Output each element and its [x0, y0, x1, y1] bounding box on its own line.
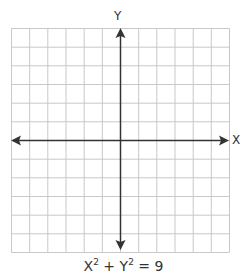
equation-y: Y — [120, 258, 129, 274]
equation-caption: X2 + Y2 = 9 — [0, 258, 247, 273]
coordinate-plane — [0, 0, 247, 275]
equation-x: X — [84, 258, 94, 274]
y-axis-label: Y — [114, 10, 121, 22]
x-axis-label: X — [232, 134, 240, 146]
equation-plus: + — [99, 258, 120, 274]
y-axis — [116, 28, 126, 250]
equation-rhs: = 9 — [134, 258, 164, 274]
